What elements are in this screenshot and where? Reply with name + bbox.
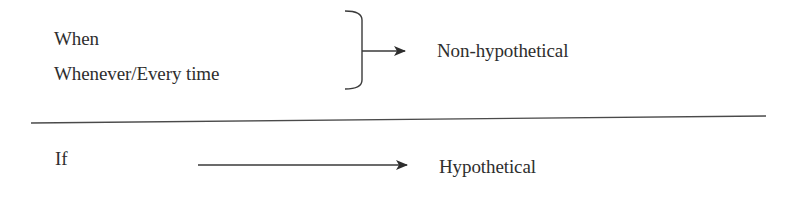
right-brace-icon — [345, 11, 362, 89]
condition-if: If — [55, 149, 67, 168]
result-hypothetical: Hypothetical — [439, 157, 536, 176]
condition-when: When — [54, 29, 99, 48]
condition-whenever-every-time: Whenever/Every time — [54, 64, 219, 83]
result-non-hypothetical: Non-hypothetical — [437, 41, 568, 60]
separator-line — [31, 116, 766, 123]
diagram-graphics — [0, 0, 808, 199]
